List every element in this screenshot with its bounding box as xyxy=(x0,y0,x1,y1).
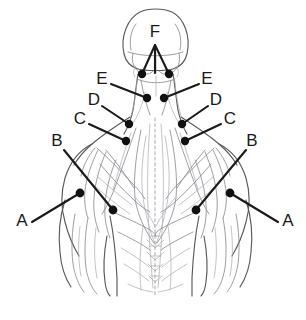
leader-line-D-right-leader xyxy=(182,106,208,124)
skull-temporal-left xyxy=(130,24,136,50)
annotation-label-C-left[interactable]: C xyxy=(74,109,86,128)
latissimus-right-fold xyxy=(161,232,193,250)
leader-line-layer xyxy=(32,45,278,222)
left-triceps-fiber-a xyxy=(79,226,81,276)
annotation-label-E-right[interactable]: E xyxy=(201,69,212,88)
right-scapula-border xyxy=(177,150,205,188)
leader-line-C-left-leader xyxy=(89,124,126,141)
annotation-label-C-right[interactable]: C xyxy=(224,109,236,128)
latissimus-left-fold xyxy=(118,232,150,250)
leader-line-F-right-leader xyxy=(155,45,169,74)
marker-C-left[interactable] xyxy=(122,137,130,145)
latissimus-right-fiber-a xyxy=(162,248,190,267)
spine-chevron-3 xyxy=(148,264,163,271)
annotation-label-A-right[interactable]: A xyxy=(282,211,294,230)
left-arm-inner xyxy=(104,236,110,296)
torso-left-flank xyxy=(110,216,117,296)
skull-temporal-right xyxy=(175,24,181,50)
spine-groove-right xyxy=(158,124,163,288)
right-triceps-long xyxy=(227,214,239,292)
marker-F-left[interactable] xyxy=(138,70,146,78)
spine-group xyxy=(147,118,164,295)
leader-line-B-left-leader xyxy=(64,150,113,210)
marker-E-right[interactable] xyxy=(160,94,168,102)
leader-line-E-left-leader xyxy=(111,84,147,98)
leader-line-F-left-leader xyxy=(142,45,155,74)
leader-line-D-left-leader xyxy=(102,106,129,124)
anatomy-illustration: AABBCCDDEEF xyxy=(0,0,306,320)
annotation-label-E-left[interactable]: E xyxy=(96,69,107,88)
annotation-label-B-right[interactable]: B xyxy=(246,131,257,150)
anatomy-diagram-root: AABBCCDDEEF xyxy=(0,0,306,320)
latissimus-right-upper xyxy=(155,212,196,236)
annotation-label-A-left[interactable]: A xyxy=(16,211,28,230)
left-shoulder-group xyxy=(59,144,150,296)
spine-groove-left xyxy=(148,124,153,288)
marker-D-right[interactable] xyxy=(178,120,186,128)
marker-B-left[interactable] xyxy=(109,206,118,215)
latissimus-right-fiber-b xyxy=(162,264,187,281)
torso-right-flank xyxy=(192,216,199,296)
right-triceps-fiber-b xyxy=(214,228,216,278)
marker-C-right[interactable] xyxy=(181,137,189,145)
erector-left xyxy=(140,226,143,290)
left-scapula-border xyxy=(106,150,134,188)
right-triceps-lateral xyxy=(214,218,226,294)
marker-A-right[interactable] xyxy=(226,189,235,198)
marker-A-left[interactable] xyxy=(76,189,85,198)
marker-F-right[interactable] xyxy=(165,70,173,78)
left-triceps-fiber-b xyxy=(95,228,97,278)
latissimus-left-fiber-b xyxy=(124,264,149,281)
right-arm-inner xyxy=(201,236,207,296)
right-triceps-fiber-a xyxy=(230,226,232,276)
marker-B-right[interactable] xyxy=(192,206,201,215)
marker-E-left[interactable] xyxy=(143,94,151,102)
trapezius-group xyxy=(74,117,237,244)
annotation-label-B-left[interactable]: B xyxy=(51,131,62,150)
trapezius-left-lower xyxy=(102,128,136,214)
left-triceps-long xyxy=(72,214,84,292)
annotation-label-D-right[interactable]: D xyxy=(210,90,222,109)
annotation-label-D-left[interactable]: D xyxy=(88,90,100,109)
spine-chevron-4 xyxy=(149,276,162,282)
left-triceps-lateral xyxy=(85,218,97,294)
leader-line-C-right-leader xyxy=(185,124,221,141)
leader-line-A-right-leader xyxy=(230,193,278,222)
annotation-label-F-top[interactable]: F xyxy=(150,22,160,41)
erector-right xyxy=(168,226,171,290)
left-arm-outer xyxy=(59,200,71,287)
latissimus-left-fiber-a xyxy=(121,248,149,267)
marker-D-left[interactable] xyxy=(125,120,133,128)
leader-line-A-left-leader xyxy=(32,193,80,222)
right-shoulder-group xyxy=(161,144,252,296)
neck-group xyxy=(124,74,187,134)
right-arm-outer xyxy=(240,200,252,287)
leader-line-B-right-leader xyxy=(196,150,246,210)
